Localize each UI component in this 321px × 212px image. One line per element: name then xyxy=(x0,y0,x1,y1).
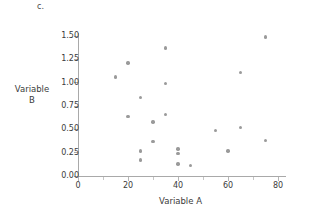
x-axis-minor-tick xyxy=(153,177,154,180)
scatter-point xyxy=(151,120,154,123)
y-axis-tick-label-text: 1.50 xyxy=(53,31,79,40)
y-axis-tick-label: 0.00 xyxy=(44,171,79,181)
scatter-point xyxy=(176,162,179,165)
x-axis-tick-label: 60 xyxy=(215,181,241,190)
x-axis-tick xyxy=(228,177,229,181)
y-axis-tick-label-text: 0.50 xyxy=(53,124,79,133)
scatter-point xyxy=(126,61,129,64)
scatter-plot-figure: c. Variable B Variable A 0.000.250.500.7… xyxy=(0,0,321,212)
x-axis-tick xyxy=(78,177,79,181)
x-axis-line xyxy=(78,176,286,177)
y-axis-tick-label-text: 0.25 xyxy=(53,148,79,157)
scatter-point xyxy=(176,147,179,150)
scatter-point xyxy=(176,152,179,155)
scatter-point xyxy=(164,82,167,85)
scatter-point xyxy=(164,46,167,49)
x-axis-minor-tick xyxy=(103,177,104,180)
x-axis-minor-tick xyxy=(253,177,254,180)
scatter-point xyxy=(264,139,267,142)
scatter-point xyxy=(239,126,242,129)
y-axis-tick-label-text: 1.25 xyxy=(53,54,79,63)
scatter-point xyxy=(264,35,267,38)
scatter-point xyxy=(151,140,154,143)
y-axis-tick-label: 1.25 xyxy=(44,54,79,64)
x-axis-tick xyxy=(278,177,279,181)
x-axis-tick xyxy=(178,177,179,181)
x-axis-tick-label: 0 xyxy=(65,181,91,190)
y-axis-tick-label: 0.50 xyxy=(44,124,79,134)
scatter-point xyxy=(139,158,142,161)
y-axis-tick-label: 1.00 xyxy=(44,78,79,88)
y-axis-tick-label-text: 0.75 xyxy=(53,101,79,110)
scatter-point xyxy=(239,71,242,74)
y-axis-tick-label: 0.75 xyxy=(44,101,79,111)
y-axis-tick-label-text: 0.00 xyxy=(53,171,79,180)
x-axis-minor-tick xyxy=(203,177,204,180)
y-axis-tick-label-text: 1.00 xyxy=(53,78,79,87)
y-axis-tick-label: 0.25 xyxy=(44,148,79,158)
x-axis-tick xyxy=(128,177,129,181)
scatter-point xyxy=(214,129,217,132)
x-axis-tick-label: 20 xyxy=(115,181,141,190)
scatter-point xyxy=(226,149,229,152)
x-axis-tick-label: 40 xyxy=(165,181,191,190)
scatter-point xyxy=(126,115,129,118)
x-axis-tick-label: 80 xyxy=(265,181,291,190)
scatter-point xyxy=(164,113,167,116)
scatter-point xyxy=(189,164,192,167)
scatter-point xyxy=(114,75,117,78)
plot-area: 0.000.250.500.751.001.251.50020406080 xyxy=(0,0,321,212)
y-axis-tick-label: 1.50 xyxy=(44,31,79,41)
scatter-point xyxy=(139,149,142,152)
scatter-point xyxy=(139,96,142,99)
